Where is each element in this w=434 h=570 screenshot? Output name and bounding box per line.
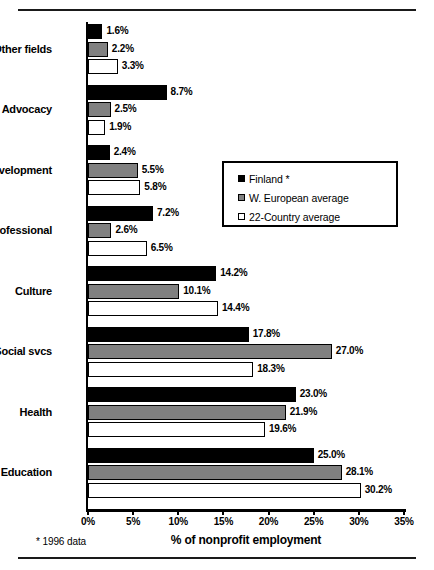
bar-value-label: 2.5% — [115, 103, 137, 114]
bar-row: 28.1% — [88, 465, 404, 480]
bar-group: Other fields1.6%2.2%3.3% — [88, 24, 404, 77]
bar-value-label: 17.8% — [253, 328, 280, 339]
bar[interactable] — [88, 284, 179, 299]
bar[interactable] — [88, 422, 265, 437]
bar-row: 14.2% — [88, 266, 404, 281]
bar-row: 25.0% — [88, 448, 404, 463]
bar-row: 3.3% — [88, 59, 404, 74]
category-label-health: Health — [0, 406, 52, 418]
bar[interactable] — [88, 24, 102, 39]
x-axis-tick-label: 35% — [384, 516, 424, 527]
legend-item-w-european-average: W. European average — [238, 191, 349, 203]
bar[interactable] — [88, 85, 167, 100]
x-axis-tick — [87, 509, 89, 515]
bar-value-label: 3.3% — [122, 60, 144, 71]
category-label-other-fields: Other fields — [0, 43, 52, 55]
bottom-divider-rule — [18, 557, 416, 559]
bar-row: 18.3% — [88, 362, 404, 377]
bar[interactable] — [88, 301, 218, 316]
bar-value-label: 25.0% — [318, 449, 345, 460]
category-label-social-svcs: Social svcs — [0, 345, 52, 357]
x-axis-tick — [222, 509, 224, 515]
bar-value-label: 1.6% — [106, 25, 128, 36]
bar[interactable] — [88, 180, 140, 195]
bar-value-label: 14.4% — [222, 302, 249, 313]
bar[interactable] — [88, 163, 138, 178]
bar-group: Social svcs17.8%27.0%18.3% — [88, 327, 404, 380]
bar[interactable] — [88, 405, 286, 420]
bar[interactable] — [88, 327, 249, 342]
x-axis-tick-label: 25% — [294, 516, 334, 527]
bar-row: 17.8% — [88, 327, 404, 342]
bar-value-label: 18.3% — [257, 363, 284, 374]
category-label-development: Development — [0, 164, 52, 176]
bar-row: 2.2% — [88, 42, 404, 57]
chart-figure: 0%5%10%15%20%25%30%35% Other fields1.6%2… — [0, 0, 434, 570]
category-label-education: Education — [0, 466, 52, 478]
chart-legend: Finland * W. European average 22-Country… — [222, 161, 398, 227]
bar[interactable] — [88, 362, 253, 377]
bar-row: 6.5% — [88, 241, 404, 256]
bar[interactable] — [88, 59, 118, 74]
bar-value-label: 5.5% — [142, 164, 164, 175]
bar[interactable] — [88, 266, 216, 281]
bar-row: 2.5% — [88, 102, 404, 117]
x-axis-tick — [403, 509, 405, 515]
bar[interactable] — [88, 241, 147, 256]
x-axis-tick-label: 30% — [339, 516, 379, 527]
legend-label-22-country-average: 22-Country average — [249, 211, 340, 223]
bar-row: 21.9% — [88, 405, 404, 420]
bar[interactable] — [88, 483, 361, 498]
x-axis-tick-label: 0% — [68, 516, 108, 527]
legend-swatch-black-icon — [238, 175, 245, 182]
bar[interactable] — [88, 206, 153, 221]
bar-value-label: 10.1% — [183, 285, 210, 296]
legend-item-finland: Finland * — [238, 172, 290, 184]
x-axis-tick-label: 5% — [113, 516, 153, 527]
category-label-culture: Culture — [0, 285, 52, 297]
bar-group: Culture14.2%10.1%14.4% — [88, 266, 404, 319]
bar-value-label: 1.9% — [109, 121, 131, 132]
bar[interactable] — [88, 120, 105, 135]
bar[interactable] — [88, 223, 111, 238]
x-axis-tick-label: 15% — [203, 516, 243, 527]
x-axis-tick — [268, 509, 270, 515]
legend-swatch-gray-icon — [238, 194, 245, 201]
x-axis-tick — [313, 509, 315, 515]
bar[interactable] — [88, 387, 296, 402]
bar[interactable] — [88, 102, 111, 117]
x-axis-tick-label: 10% — [158, 516, 198, 527]
bar-group: Advocacy8.7%2.5%1.9% — [88, 85, 404, 138]
bar[interactable] — [88, 42, 108, 57]
bar-row: 1.9% — [88, 120, 404, 135]
bar-value-label: 27.0% — [336, 345, 363, 356]
bar-group: Health23.0%21.9%19.6% — [88, 387, 404, 440]
bar-value-label: 8.7% — [171, 86, 193, 97]
bar-value-label: 30.2% — [365, 484, 392, 495]
bar-value-label: 28.1% — [346, 466, 373, 477]
bar-row: 10.1% — [88, 284, 404, 299]
bar[interactable] — [88, 448, 314, 463]
bar[interactable] — [88, 344, 332, 359]
legend-label-finland: Finland * — [249, 173, 290, 185]
bar-row: 23.0% — [88, 387, 404, 402]
bar-value-label: 5.8% — [144, 181, 166, 192]
legend-swatch-white-icon — [238, 213, 245, 220]
legend-label-w-european-average: W. European average — [249, 192, 349, 204]
category-label-professional: Professional — [0, 224, 52, 236]
bar-row: 2.4% — [88, 145, 404, 160]
bar-value-label: 21.9% — [290, 406, 317, 417]
x-axis-tick — [132, 509, 134, 515]
x-axis-tick — [358, 509, 360, 515]
bar[interactable] — [88, 465, 342, 480]
top-divider-rule — [18, 9, 416, 11]
bar-row: 27.0% — [88, 344, 404, 359]
bar-value-label: 2.6% — [115, 224, 137, 235]
footnote-text: * 1996 data — [36, 536, 86, 547]
bar-value-label: 2.2% — [112, 43, 134, 54]
bar-row: 8.7% — [88, 85, 404, 100]
bar-value-label: 19.6% — [269, 423, 296, 434]
legend-item-22-country-average: 22-Country average — [238, 210, 340, 222]
bar-value-label: 23.0% — [300, 388, 327, 399]
bar[interactable] — [88, 145, 110, 160]
